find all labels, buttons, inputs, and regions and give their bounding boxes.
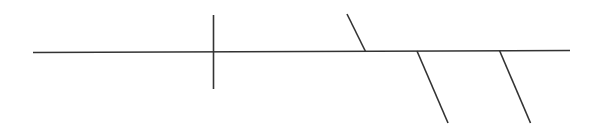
diagram-svg [0,0,596,130]
line-diagram [0,0,596,130]
lower-slanted-branch-2 [500,51,531,124]
upper-slanted-branch [347,14,366,52]
lower-slanted-branch-1 [417,51,448,123]
main-horizontal-line [33,51,570,53]
